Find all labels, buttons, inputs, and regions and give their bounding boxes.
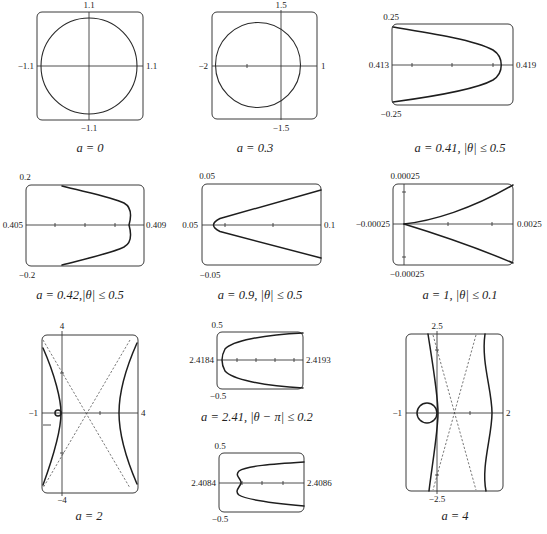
curve-arc [222, 333, 303, 388]
panel-2.4084-inset: 0.5 2.4084 2.4086 −0.5 [191, 441, 332, 524]
tick-label-top: 0.25 [383, 12, 399, 22]
tick-label-right: 2.4193 [306, 355, 331, 365]
curve-arc [62, 186, 131, 265]
tick-label-left: 0.413 [369, 60, 390, 70]
panel-a-0: 1.1 −1.1 1.1 −1.1 a = 0 [18, 0, 158, 155]
tick-label-bottom: −0.00025 [390, 269, 425, 279]
plot-frame [393, 184, 513, 265]
panel-caption: a = 0 [76, 141, 104, 155]
tick-label-left: 0.405 [3, 220, 24, 230]
curve-right-branch [119, 343, 137, 484]
panel-a-4: 2.5 −1 2 −2.5 a = 4 [392, 321, 510, 523]
curve-arc [393, 27, 501, 102]
panel-caption: a = 4 [441, 509, 468, 523]
tick-label-bottom: −1.1 [81, 123, 97, 133]
panel-a-0.9: 0.05 0.05 0.1 −0.05 a = 0.9, |θ| ≤ 0.5 [182, 171, 335, 302]
curve-right-branch [484, 334, 492, 491]
tick-label-left: −1 [392, 408, 402, 418]
tick-label-top: 0.2 [19, 172, 30, 182]
tick-label-right: 2.4086 [307, 478, 332, 488]
tick-label-left: −1 [28, 408, 38, 418]
tick-label-right: 4 [141, 408, 146, 418]
tick-label-right: 0.0025 [517, 219, 542, 229]
tick-label-top: 2.5 [431, 321, 443, 331]
tick-label-bottom: −4 [57, 495, 67, 505]
tick-label-top: 0.05 [199, 171, 215, 181]
tick-label-right: 1 [321, 61, 326, 71]
tick-label-bottom: −0.5 [210, 391, 227, 401]
tick-label-right: 0.419 [516, 60, 537, 70]
panel-a-0.41: 0.25 0.413 0.419 −0.25 a = 0.41, |θ| ≤ 0… [369, 12, 537, 155]
panel-caption: a = 0.41, |θ| ≤ 0.5 [415, 141, 506, 155]
tick-label-top: 0.5 [211, 320, 223, 330]
tick-label-bottom: −0.5 [212, 514, 229, 524]
panel-caption: a = 2 [75, 509, 102, 523]
curve-arc [237, 462, 304, 506]
panel-caption: a = 0.3 [237, 141, 274, 155]
tick-label-top: 0.00025 [390, 171, 420, 181]
tick-label-top: 0.5 [214, 441, 226, 451]
panel-caption: a = 2.41, |θ − π| ≤ 0.2 [201, 410, 313, 424]
panel-a-1: 0.00025 −0.00025 0.0025 −0.00025 a = 1, … [356, 171, 543, 302]
panel-caption: a = 0.9, |θ| ≤ 0.5 [218, 288, 303, 302]
tick-label-top: 4 [60, 321, 65, 331]
tick-label-bottom: −2.5 [429, 494, 446, 504]
tick-label-left: −1.1 [18, 61, 34, 71]
tick-label-top: 1.1 [83, 0, 94, 10]
tick-label-right: 0.1 [324, 220, 335, 230]
tick-label-bottom: −0.25 [381, 109, 402, 119]
tick-label-left: 2.4184 [189, 355, 214, 365]
tick-label-bottom: −0.2 [19, 270, 35, 280]
plot-frame [219, 453, 304, 512]
tick-label-bottom: −1.5 [273, 123, 290, 133]
panel-a-0.42: 0.2 0.405 0.409 −0.2 a = 0.42,|θ| ≤ 0.5 [3, 172, 167, 302]
panel-caption: a = 1, |θ| ≤ 0.1 [422, 288, 497, 302]
plot-frame [212, 12, 317, 119]
panel-caption: a = 0.42,|θ| ≤ 0.5 [36, 288, 124, 302]
curve-wedge [214, 190, 322, 258]
tick-label-left: 0.05 [182, 220, 198, 230]
panel-a-2: 4 −1 4 −4 a = 2 [28, 321, 146, 523]
tick-label-right: 1.1 [146, 61, 157, 71]
tick-label-left: −2 [198, 61, 208, 71]
curve-circle [216, 23, 301, 108]
curve-upper-branch [404, 185, 513, 224]
plot-frame [217, 332, 303, 389]
tick-label-left: 2.4084 [191, 478, 216, 488]
panel-a-2.41: 0.5 2.4184 2.4193 −0.5 a = 2.41, |θ − π|… [189, 320, 331, 424]
panel-a-0.3: 1.5 −2 1 −1.5 a = 0.3 [198, 0, 325, 155]
plot-frame [42, 335, 138, 493]
tick-label-bottom: −0.05 [200, 270, 221, 280]
tick-label-right: 0.409 [146, 220, 167, 230]
curve-lower-branch [404, 224, 513, 263]
figure: 1.1 −1.1 1.1 −1.1 a = 0 1.5 −2 1 −1.5 a … [0, 0, 547, 534]
tick-label-left: −0.00025 [356, 219, 391, 229]
tick-label-top: 1.5 [275, 0, 287, 10]
tick-label-right: 2 [506, 408, 511, 418]
